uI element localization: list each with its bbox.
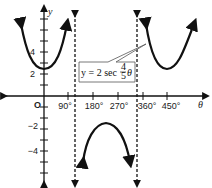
x-tick-label-270: 270° <box>110 101 129 111</box>
secant-graph: y θ O 4 2 −2 −4 90° 180° 270° 360° 450° … <box>0 0 212 188</box>
curve-branch-middle <box>83 123 130 162</box>
x-tick-label-90: 90° <box>58 101 72 111</box>
equation-var: θ <box>127 67 132 78</box>
y-tick-label-neg2: −2 <box>28 121 38 131</box>
x-tick-label-450: 450° <box>162 101 181 111</box>
x-tick-label-180: 180° <box>85 101 104 111</box>
y-tick-label-neg4: −4 <box>28 146 38 156</box>
y-axis-label: y <box>47 6 53 17</box>
origin-label: O <box>34 100 41 110</box>
x-axis-label: θ <box>198 99 203 110</box>
equation-callout: y = 2 sec 4 5 θ <box>79 44 146 82</box>
x-tick-label-360: 360° <box>138 101 157 111</box>
y-tick-label-2: 2 <box>30 69 35 79</box>
equation-frac-den: 5 <box>121 70 126 81</box>
equation-lhs: y = 2 sec <box>81 67 117 78</box>
curve-branch-right <box>146 24 194 69</box>
